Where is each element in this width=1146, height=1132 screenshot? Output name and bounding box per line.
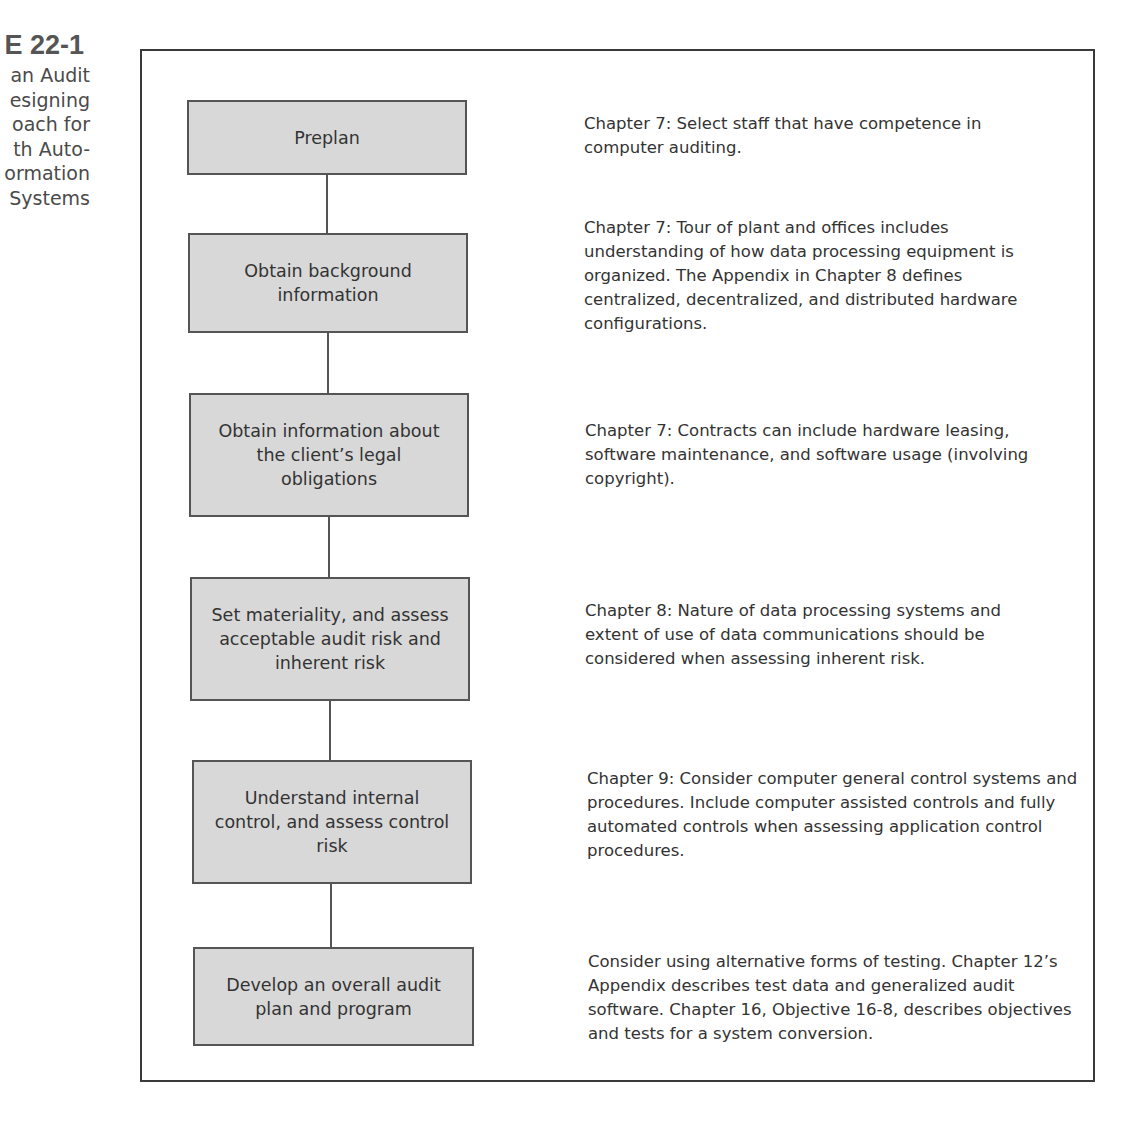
step-note-legal: Chapter 7: Contracts can include hardwar…: [585, 419, 1060, 491]
step-note-preplan: Chapter 7: Select staff that have compet…: [584, 112, 1024, 160]
figure-frame: [140, 49, 1095, 1082]
caption-line: ormation: [4, 161, 90, 186]
step-label: Develop an overall audit plan and progra…: [213, 973, 454, 1021]
step-materiality-risk: Set materiality, and assess acceptable a…: [190, 577, 470, 701]
step-background-information: Obtain background information: [188, 233, 468, 333]
caption-line: an Audit: [4, 63, 90, 88]
step-label: Obtain information about the client’s le…: [209, 419, 449, 491]
step-audit-plan: Develop an overall audit plan and progra…: [193, 947, 474, 1046]
step-legal-obligations: Obtain information about the client’s le…: [189, 393, 469, 517]
connector-line: [328, 516, 330, 579]
step-internal-control: Understand internal control, and assess …: [192, 760, 472, 884]
step-note-audit-plan: Consider using alternative forms of test…: [588, 950, 1088, 1046]
figure-number: E 22-1: [4, 30, 84, 60]
step-preplan: Preplan: [187, 100, 467, 175]
figure-caption-text: an Audit esigning oach for th Auto- orma…: [4, 63, 90, 210]
caption-line: esigning: [4, 88, 90, 113]
step-note-internal-control: Chapter 9: Consider computer general con…: [587, 767, 1087, 863]
step-note-background: Chapter 7: Tour of plant and offices inc…: [584, 216, 1054, 336]
caption-line: Systems: [4, 186, 90, 211]
step-label: Obtain background information: [208, 259, 448, 307]
step-label: Understand internal control, and assess …: [212, 786, 452, 858]
step-label: Set materiality, and assess acceptable a…: [210, 603, 450, 675]
caption-line: th Auto-: [4, 137, 90, 162]
connector-line: [326, 175, 328, 235]
connector-line: [329, 700, 331, 762]
step-label: Preplan: [294, 126, 360, 150]
step-note-materiality: Chapter 8: Nature of data processing sys…: [585, 599, 1045, 671]
connector-line: [327, 332, 329, 395]
caption-line: oach for: [4, 112, 90, 137]
connector-line: [330, 883, 332, 949]
